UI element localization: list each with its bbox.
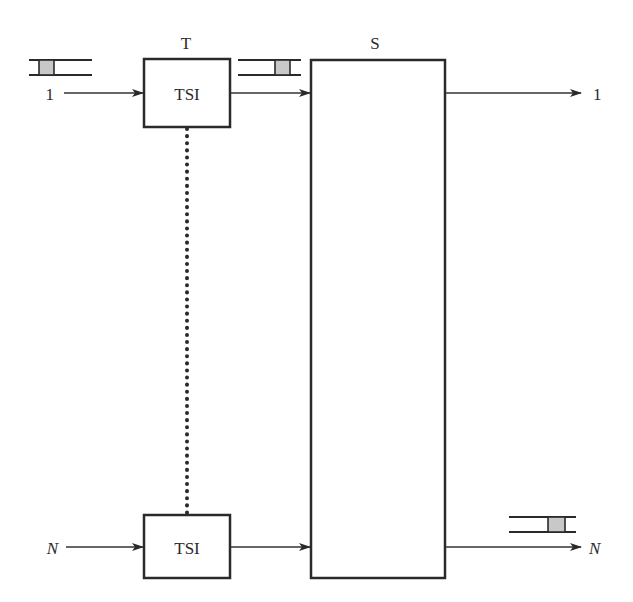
tsi-bottom-label: TSI	[174, 539, 200, 558]
stage-label-t: T	[181, 34, 192, 53]
input-label-1: 1	[46, 85, 55, 104]
output-frame-buffer-n	[509, 517, 576, 532]
stage-label-s: S	[370, 34, 379, 53]
tst-switch-diagram: T S 1 TSI 1 N TSI N	[0, 0, 633, 602]
input-frame-buffer-1	[29, 60, 92, 75]
input-label-n: N	[46, 539, 60, 558]
tsi-box-bottom: TSI	[144, 515, 230, 578]
output-label-1: 1	[593, 85, 602, 104]
output-label-n: N	[588, 539, 602, 558]
intermediate-frame-buffer-1	[238, 60, 301, 75]
tsi-top-label: TSI	[174, 85, 200, 104]
tsi-box-top: TSI	[144, 59, 230, 127]
space-switch-box	[311, 60, 445, 578]
